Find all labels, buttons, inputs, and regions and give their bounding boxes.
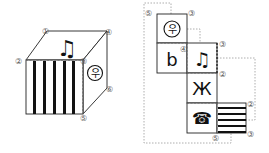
circle-symbol-icon: 우 (88, 66, 103, 81)
vertex-label-6: ⑥ (106, 85, 113, 94)
svg-text:우: 우 (168, 24, 177, 35)
svg-text:♫: ♫ (57, 36, 77, 61)
flat-b-icon: b (166, 49, 177, 70)
music-note-icon: ♫ (193, 48, 210, 70)
cube-net-diagram: ♫ 우 ① ④ ② ③ ⑥ ⑤ (0, 0, 269, 153)
net-label-4: ④ (180, 45, 187, 54)
net-label-5-top: ⑤ (145, 9, 152, 18)
cube: ♫ 우 ① ④ ② ③ ⑥ ⑤ (15, 27, 113, 123)
net-label-3-mid: ③ (219, 40, 226, 49)
circle-symbol-icon: 우 (164, 21, 180, 37)
net-label-3-bottom: ③ (247, 130, 254, 139)
net-label-3-top: ③ (188, 9, 195, 18)
net-label-5-bottom: ⑤ (212, 134, 219, 143)
net-label-2-right: ② (247, 100, 254, 109)
zhe-letter-icon: Ж (192, 78, 212, 99)
vertex-label-5: ⑤ (80, 114, 87, 123)
vertex-label-4: ④ (105, 28, 112, 37)
vertex-label-2: ② (15, 57, 22, 66)
cube-net: 우 b ♫ Ж ☎ ⑤ ③ ④ ③ ② ② ③ ⑤ (144, 3, 255, 143)
music-note-icon: ♫ (57, 36, 77, 61)
telephone-icon: ☎ (192, 109, 212, 128)
vertex-label-1: ① (42, 27, 49, 36)
svg-text:우: 우 (91, 68, 100, 79)
net-label-2-mid: ② (219, 70, 226, 79)
vertex-label-3: ③ (80, 57, 87, 66)
